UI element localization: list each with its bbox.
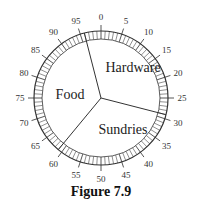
minor-tick <box>72 151 75 158</box>
minor-tick <box>72 37 75 44</box>
minor-tick <box>159 85 167 86</box>
minor-tick <box>34 102 42 103</box>
minor-tick <box>141 141 146 147</box>
minor-tick <box>133 148 137 155</box>
tick-label: 85 <box>31 45 41 55</box>
minor-tick <box>76 36 79 43</box>
tick-label: 80 <box>19 68 29 78</box>
minor-tick <box>159 109 167 110</box>
minor-tick <box>139 143 144 149</box>
minor-tick <box>153 126 160 130</box>
major-tick <box>58 39 66 50</box>
minor-tick <box>112 32 113 40</box>
tick-label: 95 <box>71 16 81 26</box>
major-tick <box>136 146 144 157</box>
minor-tick <box>93 32 94 40</box>
minor-tick <box>35 109 43 110</box>
minor-tick <box>40 123 47 126</box>
pie-dial-chart: 05101520253035404550556065707580859095 H… <box>0 0 197 200</box>
slice-divider-line <box>84 33 101 98</box>
tick-label: 30 <box>174 118 184 128</box>
minor-tick <box>129 39 133 46</box>
minor-tick <box>84 155 86 163</box>
major-tick <box>136 39 144 50</box>
tick-label: 70 <box>19 118 29 128</box>
minor-tick <box>76 153 79 160</box>
minor-tick <box>123 153 126 160</box>
minor-tick <box>105 157 106 165</box>
minor-tick <box>36 113 44 115</box>
minor-tick <box>55 141 60 147</box>
minor-tick <box>39 73 46 76</box>
minor-tick <box>69 39 73 46</box>
tick-label: 25 <box>178 93 188 103</box>
slice-label-hardware: Hardware <box>105 60 160 75</box>
minor-tick <box>35 90 43 91</box>
minor-tick <box>36 81 44 83</box>
minor-tick <box>97 157 98 165</box>
major-tick <box>58 146 66 157</box>
minor-tick <box>58 46 63 52</box>
major-tick <box>42 133 53 141</box>
minor-tick <box>35 105 43 106</box>
minor-tick <box>126 37 129 44</box>
minor-tick <box>160 94 168 95</box>
minor-tick <box>52 52 58 57</box>
minor-tick <box>69 150 73 157</box>
minor-tick <box>40 69 47 72</box>
minor-tick <box>133 41 137 48</box>
minor-tick <box>93 157 94 165</box>
minor-tick <box>52 138 58 143</box>
minor-tick <box>97 31 98 39</box>
figure-caption: Figure 7.9 <box>71 184 131 199</box>
minor-tick <box>144 52 150 57</box>
minor-tick <box>141 49 146 55</box>
minor-tick <box>139 46 144 52</box>
minor-tick <box>44 130 51 134</box>
minor-tick <box>144 138 150 143</box>
slice-label-food: Food <box>56 87 85 102</box>
minor-tick <box>154 123 161 126</box>
minor-tick <box>105 31 106 39</box>
minor-tick <box>123 36 126 43</box>
tick-label: 60 <box>49 159 59 169</box>
minor-tick <box>65 41 69 48</box>
tick-label: 10 <box>144 27 154 37</box>
tick-label: 40 <box>144 159 154 169</box>
minor-tick <box>116 155 118 163</box>
slice-divider-line <box>101 98 166 115</box>
major-tick <box>149 133 160 141</box>
minor-tick <box>42 66 49 70</box>
minor-tick <box>160 102 168 103</box>
minor-tick <box>160 90 168 91</box>
tick-label: 65 <box>31 141 41 151</box>
minor-tick <box>151 130 158 134</box>
minor-tick <box>88 32 89 40</box>
minor-tick <box>156 120 163 123</box>
tick-label: 5 <box>124 16 129 26</box>
tick-label: 0 <box>99 12 104 22</box>
tick-label: 75 <box>16 93 26 103</box>
tick-label: 55 <box>71 170 81 180</box>
minor-tick <box>49 55 55 60</box>
minor-tick <box>42 126 49 130</box>
minor-tick <box>35 85 43 86</box>
minor-tick <box>39 120 46 123</box>
tick-label: 90 <box>49 27 59 37</box>
minor-tick <box>44 62 51 66</box>
minor-tick <box>65 148 69 155</box>
minor-tick <box>108 157 109 165</box>
tick-label: 35 <box>162 141 172 151</box>
minor-tick <box>126 151 129 158</box>
tick-label: 15 <box>162 45 172 55</box>
minor-tick <box>116 33 118 41</box>
minor-tick <box>34 94 42 95</box>
minor-tick <box>108 32 109 40</box>
slice-label-sundries: Sundries <box>99 122 148 137</box>
minor-tick <box>160 105 168 106</box>
minor-tick <box>49 136 55 141</box>
tick-label: 20 <box>174 68 184 78</box>
minor-tick <box>112 156 113 164</box>
minor-tick <box>158 81 166 83</box>
major-tick <box>42 55 53 63</box>
